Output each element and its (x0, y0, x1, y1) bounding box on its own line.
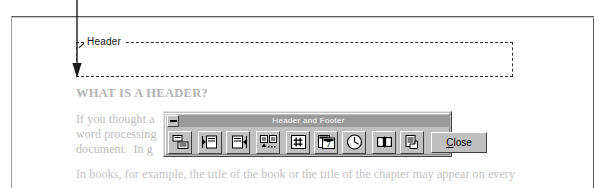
show-previous-icon (202, 134, 219, 150)
header-region-label: Header (85, 35, 124, 48)
header-and-footer-toolbar[interactable]: Header and Footer (163, 111, 452, 157)
page-sheet-top-rule (11, 17, 594, 18)
insert-time-button[interactable] (342, 131, 366, 154)
header-dashed-region[interactable] (76, 42, 513, 77)
svg-text:7: 7 (326, 140, 330, 149)
open-book-page-setup-icon (376, 134, 393, 150)
close-button-label-rest: lose (453, 137, 471, 148)
insert-date-button[interactable]: 7 (314, 131, 338, 154)
show-next-button[interactable] (226, 131, 250, 154)
document-text-toggle-icon (404, 134, 421, 150)
same-as-previous-button[interactable] (256, 131, 280, 154)
close-button-accel: C (446, 137, 453, 148)
show-next-icon (230, 134, 247, 150)
calendar-date-icon: 7 (318, 134, 335, 150)
show-hide-document-text-button[interactable] (400, 131, 424, 154)
document-paragraph-2: In books, for example, the title of the … (76, 167, 515, 182)
show-previous-button[interactable] (198, 131, 222, 154)
document-paragraph-1-line-3: document. In g (76, 142, 153, 156)
clock-time-icon (346, 134, 363, 150)
toolbar-titlebar[interactable]: Header and Footer (167, 115, 450, 127)
close-button[interactable]: Close (431, 132, 487, 153)
same-as-previous-icon (260, 134, 277, 150)
switch-between-header-and-footer-button[interactable] (168, 131, 192, 154)
insert-page-number-button[interactable] (286, 131, 310, 154)
switch-header-footer-icon (172, 134, 189, 150)
page-setup-button[interactable] (372, 131, 396, 154)
system-menu-icon[interactable] (167, 115, 179, 127)
toolbar-title: Header and Footer (167, 115, 450, 127)
page-number-hash-icon (290, 134, 307, 150)
toolbar-button-group: 7 (168, 130, 449, 154)
document-heading: WHAT IS A HEADER? (76, 86, 208, 101)
